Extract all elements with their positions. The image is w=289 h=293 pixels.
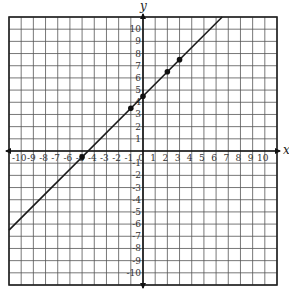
y-tick-label: -9	[132, 256, 141, 266]
x-tick-label: 1	[150, 153, 156, 163]
data-point	[140, 93, 146, 99]
y-tick-label: 8	[135, 49, 141, 59]
x-tick-label: 6	[211, 153, 217, 163]
x-axis-label: x	[283, 143, 289, 157]
y-tick-label: -1	[132, 158, 141, 168]
x-axis-arrow-left-icon	[5, 148, 11, 154]
x-tick-label: -8	[39, 153, 48, 163]
x-tick-label: 4	[187, 153, 193, 163]
x-tick-label: 8	[236, 153, 242, 163]
data-point	[177, 57, 183, 63]
x-tick-label: -9	[27, 153, 36, 163]
y-axis-arrow-up-icon	[140, 13, 146, 19]
y-tick-label: 5	[135, 85, 141, 95]
y-tick-label: -5	[132, 207, 141, 217]
y-tick-label: 1	[135, 134, 141, 144]
x-tick-label: 7	[223, 153, 229, 163]
x-axis-arrow-right-icon	[275, 148, 281, 154]
y-tick-label: 7	[135, 61, 141, 71]
y-tick-label: 3	[135, 109, 141, 119]
x-tick-label: 3	[175, 153, 181, 163]
y-tick-label: -10	[127, 268, 142, 278]
plotted-line	[9, 17, 222, 230]
x-tick-label: -3	[100, 153, 109, 163]
x-tick-label: -6	[64, 153, 73, 163]
x-tick-label: -4	[88, 153, 97, 163]
coordinate-plane: -10-9-8-7-6-5-4-3-2-10123456789101098765…	[0, 0, 289, 293]
y-tick-label: 9	[135, 36, 141, 46]
x-tick-label: -2	[112, 153, 121, 163]
y-tick-label: -2	[132, 170, 141, 180]
data-point	[165, 69, 171, 75]
data-point	[79, 154, 85, 160]
y-tick-label: -3	[132, 183, 141, 193]
axes	[5, 13, 281, 289]
x-tick-label: 5	[199, 153, 205, 163]
y-tick-label: -8	[132, 243, 141, 253]
x-tick-label: 9	[248, 153, 254, 163]
y-tick-label: -6	[132, 219, 141, 229]
data-point	[128, 106, 134, 112]
y-tick-label: -4	[132, 195, 141, 205]
y-tick-label: 6	[135, 73, 141, 83]
y-axis-arrow-down-icon	[140, 283, 146, 289]
x-tick-label: 2	[162, 153, 168, 163]
y-tick-label: 10	[130, 24, 142, 34]
y-axis-label: y	[139, 0, 147, 13]
x-tick-label: -7	[51, 153, 60, 163]
x-tick-label: 10	[257, 153, 269, 163]
x-tick-label: -10	[12, 153, 27, 163]
y-tick-label: 2	[135, 122, 141, 132]
y-tick-label: -7	[132, 231, 141, 241]
